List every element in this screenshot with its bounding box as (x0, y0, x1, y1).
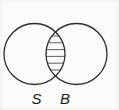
circle-b (46, 24, 107, 85)
circle-s (4, 24, 65, 85)
set-label-b: B (60, 90, 70, 107)
intersection-region (30, 36, 85, 70)
intersection-hatch (30, 36, 85, 70)
venn-diagram-panel: S B (0, 0, 119, 110)
venn-diagram: S B (0, 0, 119, 110)
set-label-s: S (31, 90, 41, 107)
